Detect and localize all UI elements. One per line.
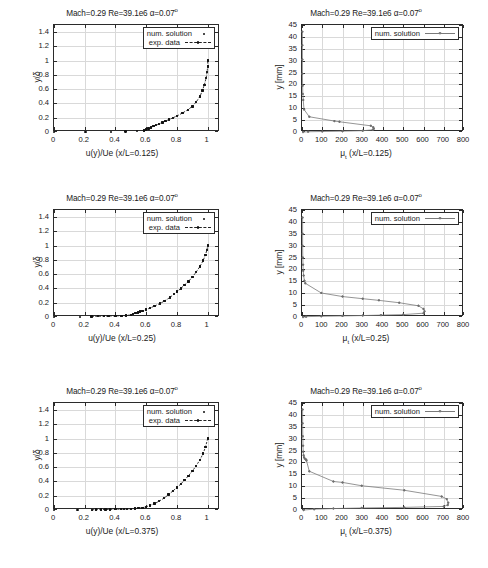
axis-label-x: 0 (299, 320, 303, 329)
plot-area: num. solution (301, 24, 463, 131)
data-point (207, 244, 209, 246)
data-point (114, 315, 116, 317)
axis-label-x: 1 (205, 513, 209, 522)
legend-key-dashed-line (185, 418, 211, 423)
data-point (141, 507, 143, 509)
axis-label-x: 0.4 (109, 320, 120, 329)
point-marker (203, 411, 205, 413)
data-point (141, 310, 143, 312)
figure-grid: Mach=0.29 Re=39.1e6 α=0.07onum. solution… (0, 0, 488, 568)
mu-subscript: t (345, 154, 347, 160)
data-point (107, 315, 109, 317)
axis-title-y: y/δ (32, 425, 42, 485)
plot-title: Mach=0.29 Re=39.1e6 α=0.07o (0, 385, 244, 396)
data-point (76, 509, 78, 511)
data-point (199, 265, 201, 267)
plot-title: Mach=0.29 Re=39.1e6 α=0.07o (0, 192, 244, 203)
legend-entry-exp-data: exp. data (147, 223, 211, 232)
axis-label-y: 0 (275, 312, 297, 321)
data-point (187, 109, 189, 111)
axis-title-y: y [mm] (274, 232, 284, 292)
plot-area: num. solution (301, 209, 463, 316)
axis-label-y: 40 (275, 409, 297, 418)
plot-title: Mach=0.29 Re=39.1e6 α=0.07o (244, 385, 488, 396)
legend-label: num. solution (147, 214, 192, 223)
degree-superscript: o (175, 7, 178, 13)
plot-panel-turbulent-viscosity-0375: Mach=0.29 Re=39.1e6 α=0.07onum. solution… (244, 378, 488, 563)
plot-legend: num. solutionexp. data (143, 27, 215, 49)
axis-label-x: 700 (436, 135, 449, 144)
data-point (125, 314, 127, 316)
series-line-exp--data (92, 246, 208, 317)
data-point (181, 112, 183, 114)
legend-key-point (197, 407, 211, 416)
data-point (201, 89, 203, 91)
plot-panel-velocity-profile-0125: Mach=0.29 Re=39.1e6 α=0.07onum. solution… (0, 0, 244, 185)
axis-label-x: 100 (315, 320, 328, 329)
data-point (153, 305, 155, 307)
plot-area: num. solutionexp. data (53, 402, 219, 509)
point-marker (438, 32, 441, 35)
axis-label-x: 0.2 (78, 320, 89, 329)
data-point (114, 508, 116, 510)
axis-label-x: 200 (335, 513, 348, 522)
data-point (180, 287, 182, 289)
series-overlay (302, 403, 464, 510)
data-point (149, 504, 151, 506)
plot-legend: num. solutionexp. data (143, 405, 215, 427)
legend-label: num. solution (147, 407, 192, 416)
axis-title-y: y/δ (32, 47, 42, 107)
data-point (104, 508, 106, 510)
axis-label-x: 600 (416, 320, 429, 329)
axis-label-y: 5 (275, 493, 297, 502)
data-point (169, 296, 171, 298)
axis-label-y: 0 (27, 505, 49, 514)
data-point (176, 486, 178, 488)
axis-label-x: 100 (315, 135, 328, 144)
data-point (134, 507, 136, 509)
data-point (207, 59, 209, 61)
axis-title-y: y [mm] (274, 425, 284, 485)
series-line-num--solution (303, 409, 449, 510)
legend-label: num. solution (147, 29, 192, 38)
data-point (203, 84, 205, 86)
plot-panel-turbulent-viscosity-0125: Mach=0.29 Re=39.1e6 α=0.07onum. solution… (244, 0, 488, 185)
legend-key-dashed-line (185, 40, 211, 45)
data-point (53, 509, 55, 511)
axis-label-x: 0.8 (171, 513, 182, 522)
axis-label-x: 700 (436, 320, 449, 329)
data-point (176, 290, 178, 292)
axis-title-x: u(y)/Ue (x/L=0.25) (0, 333, 244, 343)
plot-legend: num. solution (371, 27, 459, 40)
point-marker (197, 41, 200, 44)
plot-title: Mach=0.29 Re=39.1e6 α=0.07o (0, 7, 244, 18)
axis-label-y: 0 (275, 127, 297, 136)
axis-label-x: 800 (457, 320, 470, 329)
legend-key-line (425, 31, 455, 36)
axis-label-y: 0.2 (27, 490, 49, 499)
plot-area: num. solutionexp. data (53, 209, 219, 316)
axis-title-x: μt (x/L=0.25) (244, 333, 488, 345)
data-point (84, 131, 86, 133)
plot-panel-velocity-profile-0375: Mach=0.29 Re=39.1e6 α=0.07onum. solution… (0, 378, 244, 563)
data-point (91, 509, 93, 511)
point-marker (203, 33, 205, 35)
legend-entry-num-solution: num. solution (147, 214, 211, 223)
axis-label-x: 200 (335, 320, 348, 329)
data-point (183, 284, 185, 286)
legend-entry-num-solution: num. solution (375, 214, 455, 223)
axis-label-x: 0.6 (140, 513, 151, 522)
axis-label-x: 1 (205, 320, 209, 329)
degree-superscript: o (419, 192, 422, 198)
axis-label-y: 40 (275, 216, 297, 225)
axis-title-x: μt (x/L=0.125) (244, 148, 488, 160)
data-point (207, 65, 209, 67)
data-point (90, 315, 92, 317)
legend-entry-num-solution: num. solution (375, 29, 455, 38)
plot-area: num. solutionexp. data (53, 24, 219, 131)
axis-label-x: 0.6 (140, 135, 151, 144)
data-point (130, 508, 132, 510)
axis-title-x: u(y)/Ue (x/L=0.125) (0, 148, 244, 158)
axis-label-x: 0.8 (171, 135, 182, 144)
axis-label-y: 0 (27, 127, 49, 136)
